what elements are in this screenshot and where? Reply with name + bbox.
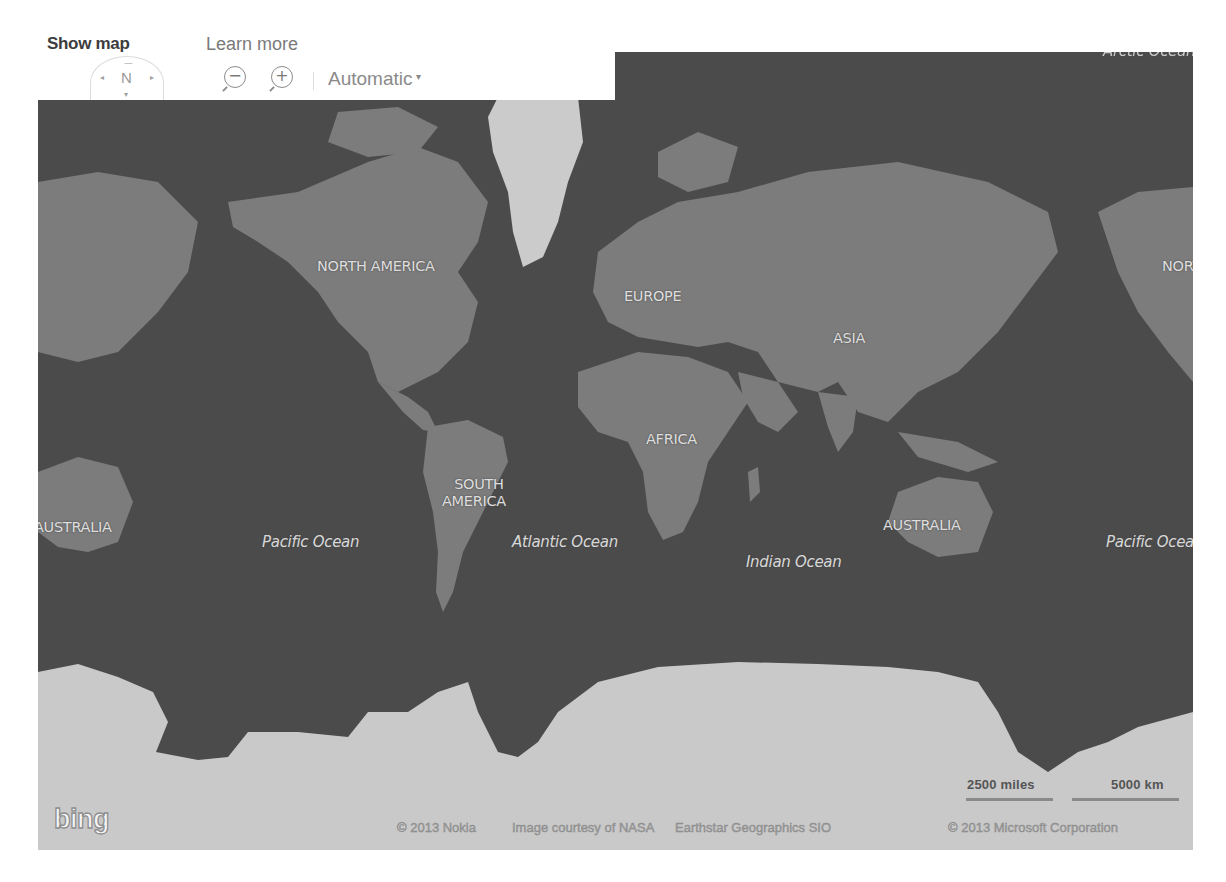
scale-miles-bar: [966, 798, 1053, 801]
scale-miles-label: 2500 miles: [967, 777, 1035, 792]
rotate-up-icon[interactable]: —: [124, 58, 133, 68]
chevron-down-icon: ▾: [416, 71, 421, 82]
zoom-in-button[interactable]: +: [271, 66, 293, 88]
asia-label: ASIA: [833, 330, 865, 346]
rotate-right-icon[interactable]: ▸: [150, 73, 154, 82]
map-terrain: [38, 52, 1193, 850]
toolbar-divider: [313, 72, 314, 90]
scale-km-bar: [1072, 798, 1179, 801]
zoom-out-icon: −: [228, 66, 241, 85]
map-style-dropdown[interactable]: Automatic▾: [328, 68, 421, 90]
indian-ocean-label: Indian Ocean: [746, 553, 841, 571]
arctic-ocean-label: Arctic Ocean: [1103, 52, 1193, 60]
rotate-down-icon[interactable]: ▾: [124, 90, 128, 99]
europe-label: EUROPE: [624, 288, 681, 304]
north-america-label: NORTH AMERICA: [317, 258, 435, 274]
atlantic-ocean-label: Atlantic Ocean: [512, 533, 618, 551]
learn-more-link[interactable]: Learn more: [206, 34, 298, 55]
scale-km-label: 5000 km: [1111, 777, 1164, 792]
attribution-microsoft: © 2013 Microsoft Corporation: [948, 820, 1118, 835]
world-map[interactable]: Arctic Ocean NORTH AMERICA NORTH AMERICA…: [38, 52, 1193, 850]
pacific-ocean-right-label: Pacific Ocean: [1106, 533, 1193, 551]
compass-navigator[interactable]: — ◂ N ▸ ▾: [90, 56, 164, 100]
attribution-earthstar: Earthstar Geographics SIO: [675, 820, 831, 835]
north-label[interactable]: N: [121, 69, 132, 86]
attribution-nasa: Image courtesy of NASA: [512, 820, 654, 835]
attribution-nokia: © 2013 Nokia: [397, 820, 476, 835]
map-style-value: Automatic: [328, 68, 412, 89]
show-map-link[interactable]: Show map: [47, 34, 130, 54]
zoom-in-icon: +: [275, 66, 288, 85]
rotate-left-icon[interactable]: ◂: [100, 73, 104, 82]
pacific-ocean-left-label: Pacific Ocean: [262, 533, 359, 551]
australia-left-label: AUSTRALIA: [38, 519, 112, 535]
south-america-line1: SOUTH: [442, 476, 506, 493]
africa-label: AFRICA: [646, 431, 697, 447]
bing-logo[interactable]: bing: [54, 804, 109, 835]
zoom-out-button[interactable]: −: [224, 66, 246, 88]
north-america-right-label: NORTH AMERICA: [1162, 258, 1193, 274]
south-america-label: SOUTH AMERICA: [442, 476, 506, 510]
south-america-line2: AMERICA: [442, 493, 506, 510]
australia-right-label: AUSTRALIA: [883, 517, 961, 533]
map-controls-panel: Show map Learn more — ◂ N ▸ ▾ − + Automa…: [38, 30, 615, 100]
